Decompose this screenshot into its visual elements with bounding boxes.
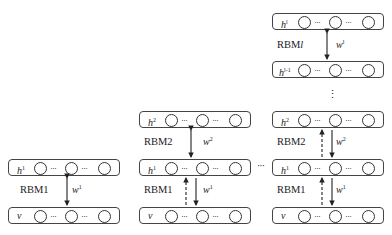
weight-arrows <box>0 0 392 235</box>
